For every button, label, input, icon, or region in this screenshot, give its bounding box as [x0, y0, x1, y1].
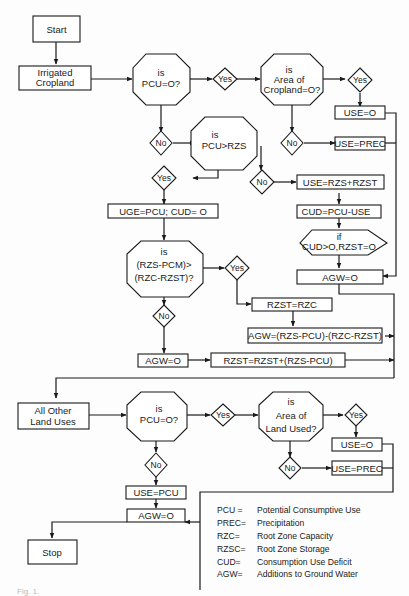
use-prec-box-2: USE=PREC: [331, 461, 383, 475]
svg-text:CUD=PCU-USE: CUD=PCU-USE: [302, 206, 371, 217]
svg-text:is: is: [288, 396, 295, 407]
use-pcu-box: USE=PCU: [126, 486, 186, 499]
svg-text:Cropland=O?: Cropland=O?: [264, 84, 321, 95]
svg-text:No: No: [151, 460, 162, 470]
svg-text:is: is: [212, 129, 219, 140]
svg-text:is: is: [161, 246, 168, 257]
if-cud-hexagon: if CUD>O,RZST=O: [300, 230, 387, 255]
irrigated-cropland-box: Irrigated Cropland: [19, 66, 91, 90]
svg-text:RZST=RZC: RZST=RZC: [267, 299, 317, 310]
svg-text:AGW=(RZS-PCU)-(RZC-RZST): AGW=(RZS-PCU)-(RZC-RZST): [248, 330, 382, 341]
no-diamond-1: No: [150, 131, 172, 155]
rzst-rzc-box: RZST=RZC: [252, 298, 332, 311]
is-pcu-gt-rzs-decision: is PCU>RZS: [191, 117, 257, 170]
is-pcu-zero-decision-2: is PCU=O?: [127, 392, 187, 441]
no-diamond-5: No: [145, 453, 167, 477]
agw-formula-box: AGW=(RZS-PCU)-(RZC-RZST): [248, 328, 382, 343]
use-prec-box: USE=PREC: [334, 137, 386, 150]
legend-meaning-pcu: Potential Consumptive Use: [257, 505, 361, 515]
legend-abbr-rzsc: RZSC=: [217, 544, 245, 554]
no-diamond-3: No: [250, 170, 274, 194]
svg-text:USE=O: USE=O: [344, 107, 376, 118]
top-connectors: [56, 42, 396, 398]
is-pcu-zero-decision: is PCU=O?: [133, 54, 190, 105]
yes-diamond-6: Yes: [345, 404, 367, 426]
legend-abbr-pcu: PCU =: [217, 505, 243, 515]
svg-text:No: No: [287, 138, 298, 148]
start-terminal: Start: [33, 16, 80, 42]
agw-zero-right-box: AGW=O: [297, 270, 383, 284]
use-rzs-rzst-box: USE=RZS+RZST: [297, 175, 384, 189]
svg-text:Stop: Stop: [42, 547, 62, 558]
svg-text:AGW=O: AGW=O: [322, 272, 358, 283]
svg-text:AGW=O: AGW=O: [145, 355, 181, 366]
svg-text:Yes: Yes: [218, 74, 232, 84]
svg-text:Yes: Yes: [157, 173, 171, 183]
no-diamond-6: No: [279, 457, 301, 479]
svg-text:UGE=PCU; CUD= O: UGE=PCU; CUD= O: [119, 206, 207, 217]
yes-diamond-4: Yes: [225, 256, 249, 280]
svg-text:No: No: [257, 177, 268, 187]
is-rzs-pcm-decision: is (RZS-PCM)> (RZC-RZST)?: [127, 241, 203, 297]
svg-text:USE=RZS+RZST: USE=RZS+RZST: [303, 177, 378, 188]
legend-meaning-rzc: Root Zone Capacity: [257, 531, 334, 541]
use-zero-box-2: USE=O: [332, 438, 382, 451]
legend-abbr-prec: PREC=: [217, 518, 246, 528]
legend-meaning-cud: Consumption Use Deficit: [257, 557, 352, 567]
svg-text:USE=O: USE=O: [341, 439, 373, 450]
svg-text:RZST=RZST+(RZS-PCU): RZST=RZST+(RZS-PCU): [223, 355, 332, 366]
yes-diamond-3: Yes: [152, 166, 176, 190]
svg-text:No: No: [285, 463, 296, 473]
svg-text:(RZS-PCM)>: (RZS-PCM)>: [136, 259, 192, 270]
svg-text:PCU=O?: PCU=O?: [140, 414, 178, 425]
svg-text:Yes: Yes: [349, 410, 363, 420]
svg-text:Cropland: Cropland: [36, 77, 75, 88]
svg-text:No: No: [156, 138, 167, 148]
legend-meaning-rzsc: Root Zone Storage: [257, 544, 330, 554]
svg-text:CUD>O,RZST=O: CUD>O,RZST=O: [302, 241, 376, 252]
uge-pcu-cud-box: UGE=PCU; CUD= O: [108, 204, 218, 218]
use-zero-box: USE=O: [335, 106, 385, 119]
legend-meaning-agw: Additions to Ground Water: [257, 569, 358, 579]
legend-abbr-agw: AGW=: [217, 569, 243, 579]
svg-text:(RZC-RZST)?: (RZC-RZST)?: [134, 272, 193, 283]
svg-text:Area of: Area of: [276, 410, 307, 421]
svg-text:Land Used?: Land Used?: [265, 423, 316, 434]
legend-abbr-rzc: RZC=: [217, 531, 240, 541]
is-area-land-used-decision: is Area of Land Used?: [259, 392, 323, 441]
svg-text:Yes: Yes: [230, 263, 244, 273]
svg-text:PCU>RZS: PCU>RZS: [202, 140, 247, 151]
svg-text:is: is: [158, 67, 165, 78]
all-other-land-uses-box: All Other Land Uses: [18, 403, 89, 429]
cud-pcu-use-box: CUD=PCU-USE: [297, 205, 381, 218]
yes-diamond-2: Yes: [348, 68, 372, 92]
legend-meaning-prec: Precipitation: [257, 518, 305, 528]
svg-text:Start: Start: [46, 24, 66, 35]
rzst-update-box: RZST=RZST+(RZS-PCU): [211, 353, 345, 367]
agw-zero-left-box: AGW=O: [138, 354, 188, 367]
no-diamond-2: No: [281, 131, 303, 155]
legend: PCU = Potential Consumptive Use PREC= Pr…: [217, 505, 361, 579]
legend-abbr-cud: CUD=: [217, 557, 241, 567]
is-area-cropland-zero-decision: is Area of Cropland=O?: [261, 54, 323, 105]
svg-text:PCU=O?: PCU=O?: [142, 78, 180, 89]
svg-text:No: No: [159, 311, 170, 321]
yes-diamond-5: Yes: [211, 404, 235, 426]
svg-text:USE=PREC: USE=PREC: [334, 138, 386, 149]
svg-text:Land Uses: Land Uses: [30, 416, 76, 427]
svg-text:All Other: All Other: [35, 405, 72, 416]
stop-terminal: Stop: [28, 540, 77, 564]
svg-text:is: is: [156, 403, 163, 414]
figure-caption: Fig. 1.: [17, 587, 39, 596]
svg-text:USE=PREC: USE=PREC: [331, 463, 383, 474]
svg-text:AGW=O: AGW=O: [138, 510, 174, 521]
svg-text:Yes: Yes: [216, 410, 230, 420]
svg-text:USE=PCU: USE=PCU: [133, 487, 178, 498]
svg-text:Yes: Yes: [353, 75, 367, 85]
yes-diamond-1: Yes: [213, 68, 237, 90]
flowchart-diagram: Start Irrigated Cropland is PCU=O? Yes i…: [0, 0, 409, 596]
agw-zero-box-2: AGW=O: [127, 509, 185, 522]
no-diamond-4: No: [153, 305, 175, 327]
